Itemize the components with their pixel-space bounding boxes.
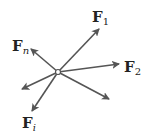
vector-f1	[58, 29, 99, 72]
origin-point	[56, 70, 61, 75]
vector-f2	[58, 64, 119, 72]
label-f1: F1	[92, 10, 109, 27]
vector-unlabeled-right	[58, 72, 109, 99]
label-fn: Fn	[12, 39, 29, 56]
label-fi: Fi	[22, 116, 36, 133]
label-f2: F2	[124, 60, 141, 77]
vector-fn	[31, 49, 58, 72]
